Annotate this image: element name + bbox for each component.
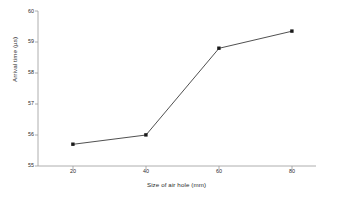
data-series-line [73,31,292,144]
x-axis-tickmarks [73,166,292,169]
line-chart: Arrival time (µs) Size of air hole (mm) … [0,0,341,199]
data-point-markers [71,29,293,145]
plot-area [0,0,341,199]
y-axis-tickmarks [35,11,38,166]
